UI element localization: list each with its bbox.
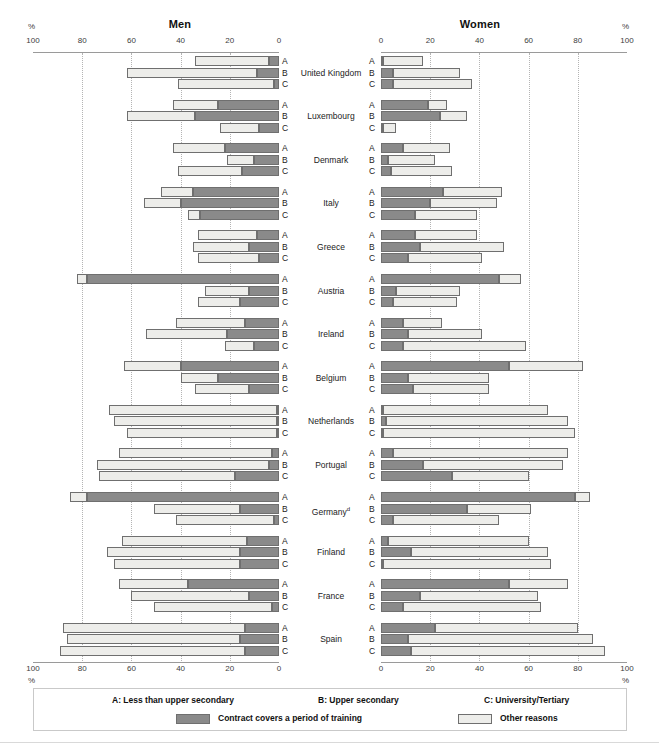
panel-title-men: Men	[60, 18, 300, 30]
country-name: Luxembourg	[307, 111, 354, 121]
axis-tick: 80	[78, 36, 87, 45]
country-footnote-marker: d	[347, 506, 350, 512]
chart-legend: A: Less than upper secondary B: Upper se…	[33, 688, 627, 731]
men-percent-symbol-bottom: %	[28, 676, 35, 685]
legend-category-b: B: Upper secondary	[318, 695, 399, 705]
country-name: Spain	[320, 634, 342, 644]
country-label: Spain	[292, 634, 370, 644]
axis-tick: 100	[620, 664, 633, 673]
country-label: Luxembourg	[292, 111, 370, 121]
axis-tick: 0	[277, 664, 281, 673]
legend-swatch-other	[458, 714, 492, 724]
country-label: Netherlands	[292, 416, 370, 426]
country-name: United Kingdom	[301, 68, 361, 78]
women-percent-symbol-bottom: %	[622, 676, 629, 685]
country-label: Belgium	[292, 373, 370, 383]
axis-tick: 40	[475, 664, 484, 673]
axis-tick: 100	[26, 36, 39, 45]
country-label: United Kingdom	[292, 68, 370, 78]
women-percent-symbol-top: %	[622, 22, 629, 31]
country-name: Ireland	[318, 329, 344, 339]
country-name: Portugal	[315, 460, 347, 470]
legend-category-a: A: Less than upper secondary	[112, 695, 234, 705]
axis-tick: 0	[379, 36, 383, 45]
axis-tick: 20	[426, 664, 435, 673]
country-name: Finland	[317, 547, 345, 557]
legend-label-other: Other reasons	[500, 713, 558, 723]
x-axis-top-men: 100806040200	[33, 36, 279, 50]
country-label: Austria	[292, 286, 370, 296]
panel-title-women: Women	[360, 18, 600, 30]
country-name: Austria	[318, 286, 344, 296]
country-label: Portugal	[292, 460, 370, 470]
x-axis-bottom-men: 100806040200	[33, 664, 279, 678]
axis-tick: 80	[573, 664, 582, 673]
country-label: Finland	[292, 547, 370, 557]
axis-line-men-bottom	[33, 662, 279, 663]
x-axis-top-women: 020406080100	[381, 36, 627, 50]
axis-tick: 20	[225, 664, 234, 673]
country-labels: United KingdomLuxembourgDenmarkItalyGree…	[0, 53, 659, 663]
legend-category-c: C: University/Tertiary	[484, 695, 569, 705]
axis-tick: 20	[426, 36, 435, 45]
axis-tick: 60	[127, 664, 136, 673]
men-percent-symbol-top: %	[28, 22, 35, 31]
country-name: Netherlands	[308, 416, 354, 426]
axis-tick: 20	[225, 36, 234, 45]
axis-tick: 80	[573, 36, 582, 45]
axis-tick: 60	[524, 664, 533, 673]
axis-tick: 60	[127, 36, 136, 45]
axis-line-women-bottom	[381, 662, 627, 663]
country-label: Italy	[292, 198, 370, 208]
footer-divider	[0, 742, 659, 743]
legend-series: Contract covers a period of training Oth…	[34, 713, 626, 726]
country-name: Germany	[312, 506, 347, 516]
axis-tick: 80	[78, 664, 87, 673]
axis-tick: 40	[176, 36, 185, 45]
chart-page: % % Men Women 100806040200 020406080100 …	[0, 0, 659, 745]
axis-tick: 0	[277, 36, 281, 45]
country-label: Denmark	[292, 155, 370, 165]
country-label: France	[292, 591, 370, 601]
country-name: Belgium	[316, 373, 347, 383]
country-name: Denmark	[314, 155, 348, 165]
axis-tick: 100	[26, 664, 39, 673]
legend-swatch-training	[176, 714, 210, 724]
country-label: Greece	[292, 242, 370, 252]
axis-tick: 60	[524, 36, 533, 45]
legend-categories: A: Less than upper secondary B: Upper se…	[34, 695, 626, 707]
axis-tick: 0	[379, 664, 383, 673]
country-label: Germanyd	[292, 504, 370, 514]
axis-tick: 100	[620, 36, 633, 45]
country-name: France	[318, 591, 344, 601]
axis-tick: 40	[176, 664, 185, 673]
axis-tick: 40	[475, 36, 484, 45]
country-name: Greece	[317, 242, 345, 252]
country-label: Ireland	[292, 329, 370, 339]
legend-label-training: Contract covers a period of training	[218, 713, 362, 723]
country-name: Italy	[323, 198, 339, 208]
x-axis-bottom-women: 020406080100	[381, 664, 627, 678]
